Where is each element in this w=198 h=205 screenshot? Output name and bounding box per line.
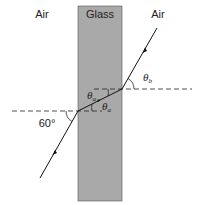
refraction-diagram: Air Glass Air 60° θa θa θb (0, 0, 198, 205)
label-air-right: Air (151, 8, 165, 20)
label-glass: Glass (86, 8, 115, 20)
arrow-icon (143, 48, 148, 54)
angle-arc-60 (66, 111, 72, 122)
label-air-left: Air (35, 8, 49, 20)
angle-arc-theta-b (128, 79, 134, 90)
label-theta-b: θb (143, 71, 152, 85)
glass-slab (78, 6, 122, 201)
arrow-icon (53, 150, 58, 155)
label-incident-angle: 60° (39, 117, 56, 129)
